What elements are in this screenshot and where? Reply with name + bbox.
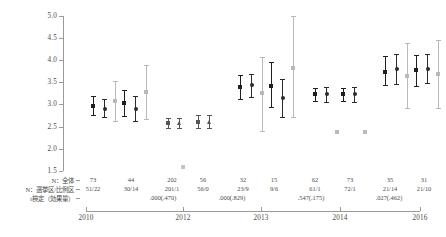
y-tick: [59, 82, 63, 83]
data-point-circle: [426, 67, 430, 71]
x-tick: [86, 207, 87, 211]
y-tick-label: 2.5: [31, 123, 57, 131]
error-bar-cap: [394, 84, 399, 85]
error-bar-cap: [352, 102, 357, 103]
data-point-square: [269, 84, 273, 88]
error-bar-cap: [238, 75, 243, 76]
error-bar-cap: [405, 108, 410, 109]
error-bar-cap: [425, 54, 430, 55]
cell-n-split: 30/14: [115, 185, 147, 192]
error-bar-cap: [383, 85, 388, 86]
error-bar-cap: [144, 119, 149, 120]
error-bar-cap: [425, 83, 430, 84]
cell-n-total: 202: [158, 176, 186, 183]
error-bar-cap: [324, 87, 329, 88]
cell-n-split: 72/1: [334, 185, 366, 192]
x-tick-label: 2012: [163, 214, 203, 222]
y-tick: [59, 38, 63, 39]
x-tick-label: 2010: [66, 214, 106, 222]
error-bar-cap: [122, 116, 127, 117]
y-tick-label: 3.5: [31, 78, 57, 86]
error-bar-cap: [341, 88, 346, 89]
y-tick: [59, 171, 63, 172]
y-tick-label: 4.5: [31, 34, 57, 42]
error-bar-cap: [122, 90, 127, 91]
error-bar-cap: [260, 131, 265, 132]
error-bar-cap: [280, 79, 285, 80]
x-tick-label: 2014: [320, 214, 360, 222]
data-point-square: [166, 121, 170, 125]
cell-n-total: 44: [117, 176, 145, 183]
x-tick: [261, 207, 262, 211]
y-tick-label: 4.0: [31, 56, 57, 64]
data-point-square: [436, 72, 440, 76]
data-point-circle: [134, 107, 138, 111]
error-bar-cap: [249, 97, 254, 98]
cell-n-split: 21/10: [408, 185, 440, 192]
y-tick-label: 5.0: [31, 12, 57, 20]
y-axis-line: [63, 16, 64, 171]
cell-n-split: 9/6: [258, 185, 290, 192]
y-tick: [59, 16, 63, 17]
data-point-triangle: [177, 121, 181, 125]
error-bar-cap: [249, 74, 254, 75]
plot-area: 5.0 4.5 4.0 3.5 3.0 2.5 2.0 1.5 N：全体 N：選…: [0, 0, 446, 237]
error-bar-cap: [313, 101, 318, 102]
x-tick-label: 2016: [400, 214, 440, 222]
error-bar-cap: [394, 54, 399, 55]
error-bar-cap: [238, 99, 243, 100]
data-point-circle: [395, 67, 399, 71]
error-bar-cap: [177, 118, 182, 119]
cell-n-total: 56: [189, 176, 217, 183]
data-point-square: [341, 92, 345, 96]
error-bar-cap: [144, 65, 149, 66]
error-bar-cap: [113, 121, 118, 122]
row-label-tick: [76, 198, 80, 199]
error-bar-cap: [352, 87, 357, 88]
error-bar-cap: [196, 115, 201, 116]
data-point-square: [122, 101, 126, 105]
error-bar-cap: [436, 108, 441, 109]
cell-n-split: 23/9: [227, 185, 259, 192]
data-point-square: [196, 120, 200, 124]
y-tick-label: 1.5: [31, 167, 57, 175]
error-bar-cap: [196, 128, 201, 129]
y-tick-label: 3.0: [31, 100, 57, 108]
row-label-n-split: N：選挙区/比例区: [0, 185, 74, 194]
error-bar-cap: [414, 55, 419, 56]
data-point-square: [414, 68, 418, 72]
y-tick: [59, 104, 63, 105]
y-tick-label: 2.0: [31, 145, 57, 153]
cell-n-total: 35: [376, 176, 404, 183]
error-bar-cap: [280, 117, 285, 118]
error-bar-cap: [91, 115, 96, 116]
data-point-square: [238, 85, 242, 89]
data-point-circle: [281, 96, 285, 100]
cell-ttest-pvalue: .000(.470): [141, 194, 185, 201]
data-point-square: [335, 130, 339, 134]
error-bar-cap: [133, 121, 138, 122]
data-point-square: [405, 74, 409, 78]
error-bar-cap: [166, 118, 171, 119]
cell-n-total: 62: [301, 176, 329, 183]
cell-n-split: 51/22: [77, 185, 109, 192]
error-bar-cap: [260, 57, 265, 58]
y-tick: [59, 149, 63, 150]
error-bar-cap: [91, 96, 96, 97]
cell-n-total: 31: [410, 176, 438, 183]
data-point-square: [363, 130, 367, 134]
error-bar-cap: [177, 128, 182, 129]
x-tick-label: 2013: [241, 214, 281, 222]
error-bar-cap: [269, 62, 274, 63]
data-point-circle: [103, 107, 107, 111]
data-point-square: [113, 99, 117, 103]
error-bar-cap: [383, 56, 388, 57]
y-tick: [59, 127, 63, 128]
x-tick: [183, 207, 184, 211]
data-point-square: [291, 66, 295, 70]
cell-n-total: 73: [336, 176, 364, 183]
error-bar-cap: [166, 128, 171, 129]
x-axis-line: [86, 211, 420, 212]
error-bar-cap: [291, 117, 296, 118]
error-bar-cap: [324, 102, 329, 103]
